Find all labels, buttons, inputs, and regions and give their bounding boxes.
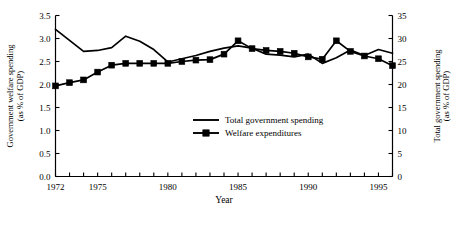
series-marker-welfare-expenditures [179, 59, 185, 65]
series-marker-welfare-expenditures [333, 38, 339, 44]
x-axis-tick-label: 1995 [369, 182, 388, 192]
series-marker-welfare-expenditures [277, 48, 283, 54]
series-marker-welfare-expenditures [291, 50, 297, 56]
right-axis-tick-label: 15 [398, 103, 408, 113]
right-axis-title-line2: (as % of GDP) [441, 71, 451, 121]
right-axis-tick-label: 10 [398, 126, 408, 136]
left-axis-tick-label: 0.5 [39, 149, 51, 159]
series-line-total-government-spending [56, 29, 393, 63]
series-marker-welfare-expenditures [95, 69, 101, 75]
series-marker-welfare-expenditures [390, 63, 396, 69]
line-chart-canvas: 0.00.51.01.52.02.53.03.50510152025303519… [0, 0, 451, 228]
left-axis-title: Government welfare spending [5, 44, 15, 148]
left-axis-tick-label: 1.0 [39, 126, 51, 136]
series-marker-welfare-expenditures [207, 57, 213, 63]
series-marker-welfare-expenditures [347, 48, 353, 54]
right-axis-tick-label: 5 [398, 149, 403, 159]
series-marker-welfare-expenditures [151, 60, 157, 66]
left-axis-tick-label: 3.5 [39, 11, 51, 21]
right-axis-tick-label: 35 [398, 11, 408, 21]
chart-figure: 0.00.51.01.52.02.53.03.50510152025303519… [0, 0, 451, 228]
series-marker-welfare-expenditures [137, 60, 143, 66]
right-axis-tick-label: 20 [398, 80, 408, 90]
left-axis-tick-label: 3.0 [39, 34, 51, 44]
right-axis-tick-label: 30 [398, 34, 408, 44]
left-axis-tick-label: 2.0 [39, 80, 51, 90]
series-marker-welfare-expenditures [193, 57, 199, 63]
right-axis-tick-label: 25 [398, 57, 408, 67]
x-axis-tick-label: 1990 [299, 182, 318, 192]
left-axis-tick-label: 2.5 [39, 57, 51, 67]
series-marker-welfare-expenditures [123, 60, 129, 66]
series-marker-welfare-expenditures [376, 56, 382, 62]
series-marker-welfare-expenditures [362, 53, 368, 59]
series-marker-welfare-expenditures [109, 62, 115, 68]
x-axis-tick-label: 1980 [159, 182, 178, 192]
left-axis-tick-label: 0.0 [39, 172, 51, 182]
series-marker-welfare-expenditures [165, 60, 171, 66]
series-marker-welfare-expenditures [319, 56, 325, 62]
x-axis-tick-label: 1972 [47, 182, 65, 192]
legend-label-total-government-spending: Total government spending [225, 115, 324, 125]
left-axis-title-line2: (as % of GDP) [15, 71, 25, 121]
series-marker-welfare-expenditures [249, 46, 255, 52]
series-marker-welfare-expenditures [221, 51, 227, 57]
series-marker-welfare-expenditures [263, 48, 269, 54]
right-axis-tick-label: 0 [398, 172, 403, 182]
series-marker-welfare-expenditures [81, 77, 87, 83]
left-axis-tick-label: 1.5 [39, 103, 51, 113]
x-axis-tick-label: 1985 [229, 182, 248, 192]
x-axis-tick-label: 1975 [89, 182, 108, 192]
x-axis-title: Year [215, 195, 233, 205]
series-marker-welfare-expenditures [67, 80, 73, 86]
series-marker-welfare-expenditures [53, 83, 59, 89]
series-marker-welfare-expenditures [305, 54, 311, 60]
legend-label-welfare-expenditures: Welfare expenditures [225, 128, 302, 138]
series-marker-welfare-expenditures [235, 38, 241, 44]
legend-marker-welfare-expenditures [203, 130, 209, 136]
